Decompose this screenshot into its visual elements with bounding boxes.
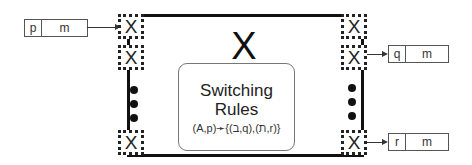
message-header: q xyxy=(389,46,406,62)
message-header: r xyxy=(389,134,406,150)
rules-title-line2: Rules xyxy=(179,100,294,119)
input-arrow-line xyxy=(87,27,116,28)
output-arrow-line-q xyxy=(367,54,383,55)
ellipsis-dot-icon xyxy=(130,114,138,122)
left-port-1: X xyxy=(118,14,144,39)
left-port-2: X xyxy=(118,45,144,70)
output-message-r: r m xyxy=(388,133,449,151)
right-port-3: X xyxy=(341,130,367,155)
rules-formula: (A,p)➛{(ב,q),(ת,r)} xyxy=(179,122,294,135)
ellipsis-dot-icon xyxy=(130,100,138,108)
input-message-p: p m xyxy=(24,19,88,37)
message-body: m xyxy=(42,20,87,36)
rules-title-line1: Switching xyxy=(179,81,294,100)
right-port-2: X xyxy=(341,45,367,70)
ellipsis-dot-icon xyxy=(348,84,356,92)
switching-rules-box: Switching Rules (A,p)➛{(ב,q),(ת,r)} xyxy=(178,63,295,151)
output-arrow-line-r xyxy=(367,142,383,143)
ellipsis-dot-icon xyxy=(130,86,138,94)
output-message-q: q m xyxy=(388,45,449,63)
message-body: m xyxy=(406,46,448,62)
message-header: p xyxy=(25,20,42,36)
message-body: m xyxy=(406,134,448,150)
component-label: X xyxy=(222,27,266,65)
left-port-3: X xyxy=(118,130,144,155)
ellipsis-dot-icon xyxy=(348,112,356,120)
ellipsis-dot-icon xyxy=(348,98,356,106)
right-port-1: X xyxy=(341,14,367,39)
